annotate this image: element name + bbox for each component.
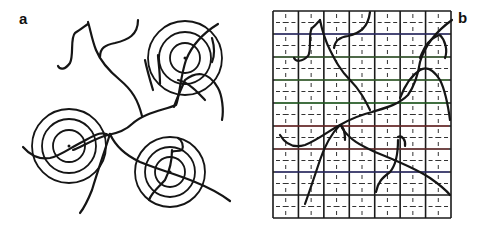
panel-b-grid-diagram: [273, 11, 452, 218]
fiber-curve: [334, 12, 370, 48]
fiber-curve: [212, 38, 214, 62]
ring-center-dot: [68, 145, 71, 148]
fiber-curve: [100, 20, 138, 57]
fiber-curve: [280, 125, 345, 146]
fiber-curve: [420, 35, 446, 58]
fiber-curve: [88, 22, 142, 116]
panel-a-fiber-diagram: [23, 20, 230, 213]
diagram-canvas: [0, 0, 484, 226]
fiber-curve: [23, 133, 110, 158]
fiber-curve: [305, 20, 452, 204]
fiber-curve: [73, 24, 218, 150]
fiber-curve: [172, 138, 183, 152]
fiber-curve: [58, 24, 88, 69]
